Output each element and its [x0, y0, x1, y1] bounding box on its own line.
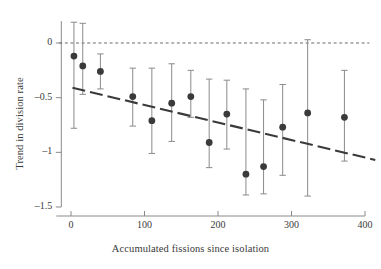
data-point-marker: [223, 111, 230, 118]
x-axis-title: Accumulated fissions since isolation: [0, 243, 381, 254]
x-tick-label: 400: [340, 219, 381, 230]
data-point-marker: [79, 63, 86, 70]
data-point-marker: [97, 68, 104, 75]
data-point-marker: [304, 110, 311, 117]
data-point-marker: [168, 100, 175, 107]
error-bar: [149, 68, 155, 153]
x-tick-label: 200: [193, 219, 243, 230]
data-point-marker: [279, 124, 286, 131]
x-tick-label: 0: [46, 219, 96, 230]
data-point-marker: [71, 53, 78, 60]
y-axis-title: Trend in division rate: [14, 59, 25, 189]
data-point-marker: [148, 117, 155, 124]
x-tick-label: 100: [120, 219, 170, 230]
error-bar: [80, 23, 86, 94]
error-bar: [206, 79, 212, 168]
y-tick-label: –1: [12, 145, 52, 156]
data-point-marker: [243, 171, 250, 178]
y-tick-label: 0: [12, 36, 52, 47]
error-bar: [71, 22, 77, 128]
y-tick-label: –0.5: [12, 91, 52, 102]
data-point-marker: [341, 114, 348, 121]
data-point-marker: [187, 93, 194, 100]
error-bar: [304, 40, 310, 196]
y-tick-label: –1.5: [12, 200, 52, 211]
data-point-marker: [260, 163, 267, 170]
data-point-marker: [129, 93, 136, 100]
error-bar: [260, 100, 266, 194]
error-bar: [243, 89, 249, 195]
chart-figure: Trend in division rate Accumulated fissi…: [0, 0, 381, 269]
data-point-marker: [206, 139, 213, 146]
x-tick-label: 300: [267, 219, 317, 230]
